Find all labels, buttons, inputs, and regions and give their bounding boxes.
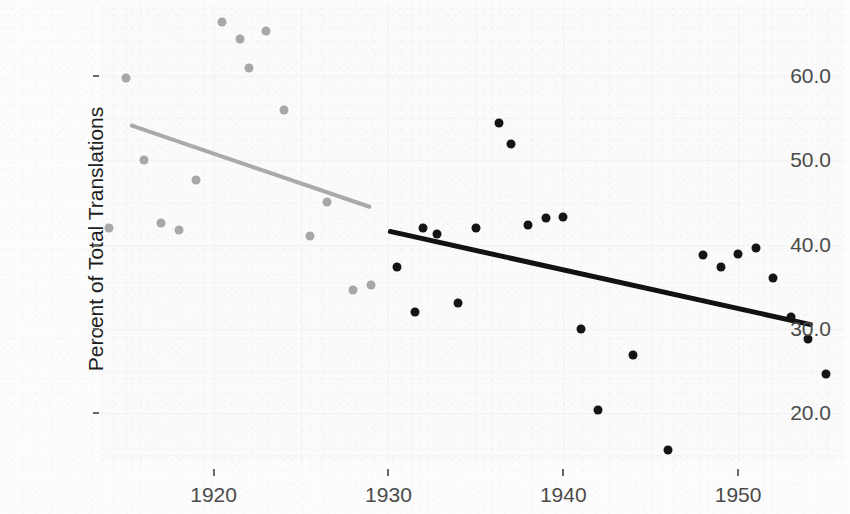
y-tick-mark (93, 244, 99, 246)
y-tick-label: 40.0 (790, 233, 831, 257)
late-trend-line (388, 229, 814, 328)
plot-panel: Percent of Total Translations 20.030.040… (100, 5, 843, 463)
data-point (751, 243, 760, 252)
gridline-vertical (738, 5, 739, 463)
y-tick-mark (93, 328, 99, 330)
early-trend-line (129, 123, 372, 209)
y-tick-label: 20.0 (790, 401, 831, 425)
gridline-horizontal-minor (100, 287, 843, 288)
gridline-horizontal (100, 160, 843, 161)
data-point (541, 213, 550, 222)
data-point (305, 232, 314, 241)
data-point (410, 307, 419, 316)
gridline-vertical (214, 5, 215, 463)
data-point (433, 229, 442, 238)
data-point (471, 223, 480, 232)
gridline-horizontal (100, 76, 843, 77)
y-tick-mark (93, 159, 99, 161)
data-point (506, 139, 515, 148)
x-tick-label: 1940 (540, 483, 587, 507)
gridline-vertical-minor (301, 5, 302, 463)
gridline-vertical (563, 5, 564, 463)
data-point (366, 280, 375, 289)
data-point (734, 249, 743, 258)
gridline-horizontal-minor (100, 455, 843, 456)
data-point (821, 369, 830, 378)
x-tick-label: 1920 (190, 483, 237, 507)
data-point (699, 251, 708, 260)
y-tick-label: 30.0 (790, 317, 831, 341)
data-point (122, 74, 131, 83)
data-point (349, 285, 358, 294)
data-point (157, 219, 166, 228)
chart-figure: Percent of Total Translations 20.030.040… (0, 0, 850, 514)
x-tick-mark (737, 469, 739, 476)
y-tick-mark (93, 75, 99, 77)
gridline-horizontal (100, 413, 843, 414)
y-tick-mark (93, 412, 99, 414)
data-point (664, 445, 673, 454)
data-point (244, 64, 253, 73)
y-tick-label: 50.0 (790, 148, 831, 172)
data-point (629, 351, 638, 360)
gridline-vertical-minor (651, 5, 652, 463)
gridline-horizontal (100, 329, 843, 330)
data-point (494, 118, 503, 127)
data-point (279, 106, 288, 115)
data-point (139, 156, 148, 165)
data-point (218, 17, 227, 26)
data-point (559, 212, 568, 221)
gridline-horizontal (100, 245, 843, 246)
data-point (235, 34, 244, 43)
gridline-horizontal-minor (100, 118, 843, 119)
y-axis-label: Percent of Total Translations (84, 107, 108, 372)
y-tick-label: 60.0 (790, 64, 831, 88)
data-point (594, 406, 603, 415)
data-point (769, 274, 778, 283)
x-tick-mark (213, 469, 215, 476)
data-point (323, 198, 332, 207)
data-point (192, 175, 201, 184)
data-point (454, 299, 463, 308)
gridline-vertical-minor (476, 5, 477, 463)
data-point (174, 226, 183, 235)
gridline-horizontal-minor (100, 371, 843, 372)
data-point (716, 263, 725, 272)
x-tick-label: 1950 (715, 483, 762, 507)
data-point (524, 221, 533, 230)
gridline-horizontal-minor (100, 202, 843, 203)
x-tick-label: 1930 (365, 483, 412, 507)
data-point (393, 263, 402, 272)
x-tick-mark (387, 469, 389, 476)
data-point (419, 223, 428, 232)
data-point (576, 324, 585, 333)
x-tick-mark (562, 469, 564, 476)
data-point (262, 27, 271, 36)
